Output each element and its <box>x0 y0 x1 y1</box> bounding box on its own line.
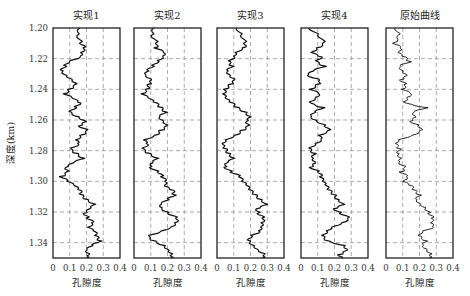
x-axis-label: 孔隙度 <box>236 277 266 288</box>
y-axis-label: 深度(km) <box>5 122 16 164</box>
x-tick-label: 0 <box>298 263 303 273</box>
y-tick-label: 1.26 <box>29 115 48 125</box>
panel-1: 实现100.10.20.30.4孔隙度 <box>50 9 126 288</box>
x-tick-label: 0 <box>383 263 388 273</box>
x-tick-label: 0.4 <box>277 263 291 273</box>
x-tick-label: 0.1 <box>63 263 77 273</box>
x-tick-label: 0.4 <box>194 263 208 273</box>
x-tick-label: 0.2 <box>413 263 427 273</box>
panel-3: 实现300.10.20.30.4孔隙度 <box>214 9 290 288</box>
x-tick-label: 0.2 <box>244 263 258 273</box>
x-tick-label: 0 <box>214 263 219 273</box>
x-tick-label: 0.1 <box>311 263 325 273</box>
y-tick-label: 1.24 <box>29 84 48 94</box>
y-tick-label: 1.30 <box>29 176 48 186</box>
porosity-curve <box>307 28 349 258</box>
x-tick-label: 0.2 <box>328 263 342 273</box>
x-tick-label: 0.2 <box>161 263 175 273</box>
panel-title: 原始曲线 <box>400 9 440 21</box>
panel-title: 实现1 <box>73 9 99 21</box>
x-tick-label: 0 <box>131 263 136 273</box>
y-tick-label: 1.28 <box>29 146 48 156</box>
y-tick-label: 1.20 <box>29 23 48 33</box>
x-axis-label: 孔隙度 <box>153 277 183 288</box>
porosity-curve <box>393 28 435 258</box>
y-axis: 1.201.221.241.261.281.301.321.34 <box>29 23 48 248</box>
panel-title: 实现4 <box>321 9 347 21</box>
porosity-curve <box>59 28 102 258</box>
x-axis-label: 孔隙度 <box>405 277 435 288</box>
x-tick-label: 0.1 <box>396 263 410 273</box>
x-axis-label: 孔隙度 <box>320 277 350 288</box>
x-tick-label: 0.4 <box>113 263 127 273</box>
porosity-curve <box>141 28 178 258</box>
x-tick-label: 0.1 <box>227 263 241 273</box>
x-tick-label: 0.3 <box>177 263 191 273</box>
x-axis-label: 孔隙度 <box>72 277 102 288</box>
y-tick-label: 1.32 <box>29 207 48 217</box>
panel-title: 实现2 <box>154 9 180 21</box>
x-tick-label: 0.3 <box>96 263 110 273</box>
panel-2: 实现200.10.20.30.4孔隙度 <box>131 9 207 288</box>
panel-5: 原始曲线00.10.20.30.4孔隙度 <box>383 9 459 288</box>
panels: 实现100.10.20.30.4孔隙度实现200.10.20.30.4孔隙度实现… <box>50 9 459 288</box>
porosity-curve <box>222 28 267 258</box>
chart: 1.201.221.241.261.281.301.321.34 深度(km) … <box>0 0 470 296</box>
y-tick-label: 1.34 <box>29 238 48 248</box>
panel-title: 实现3 <box>237 9 263 21</box>
x-tick-label: 0.3 <box>429 263 443 273</box>
x-tick-label: 0.4 <box>361 263 375 273</box>
panel-4: 实现400.10.20.30.4孔隙度 <box>298 9 374 288</box>
x-tick-label: 0.4 <box>446 263 460 273</box>
x-tick-label: 0.3 <box>344 263 358 273</box>
x-tick-label: 0.2 <box>80 263 94 273</box>
x-tick-label: 0 <box>50 263 55 273</box>
x-tick-label: 0.1 <box>144 263 158 273</box>
x-tick-label: 0.3 <box>260 263 274 273</box>
y-tick-label: 1.22 <box>29 54 48 64</box>
